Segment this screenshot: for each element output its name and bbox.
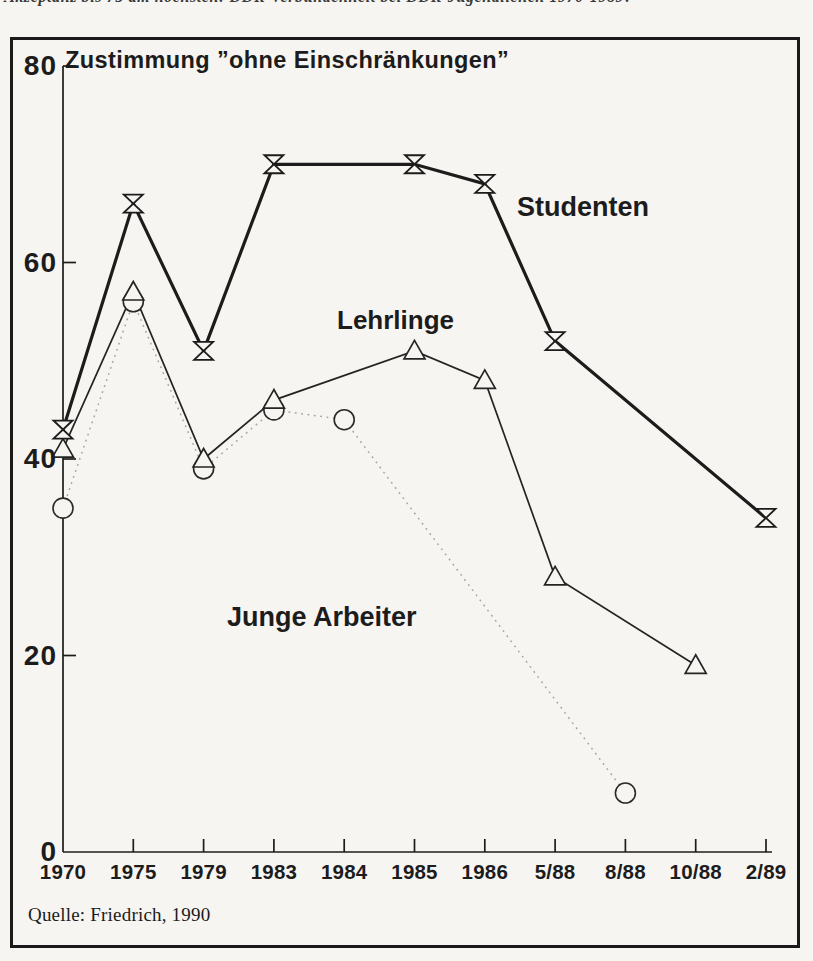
marker-lehrlinge xyxy=(123,281,144,300)
marker-junge-arbeiter xyxy=(334,410,354,430)
marker-lehrlinge xyxy=(685,655,706,674)
marker-lehrlinge xyxy=(545,566,566,585)
marker-lehrlinge xyxy=(193,449,214,468)
marker-studenten xyxy=(194,342,213,360)
y-tick-label: 20 xyxy=(0,639,57,673)
y-tick-label: 60 xyxy=(0,246,57,280)
y-tick-label: 40 xyxy=(0,442,57,476)
marker-lehrlinge xyxy=(474,370,495,389)
series-label-lehrlinge: Lehrlinge xyxy=(337,305,454,336)
x-tick-label: 2/89 xyxy=(728,860,804,884)
marker-studenten xyxy=(546,332,565,350)
y-tick-label: 80 xyxy=(0,49,57,83)
x-tick-label: 1985 xyxy=(377,860,453,884)
x-tick-label: 8/88 xyxy=(587,860,663,884)
marker-studenten xyxy=(475,175,494,193)
x-tick-label: 1979 xyxy=(166,860,242,884)
marker-studenten xyxy=(124,195,143,213)
marker-junge-arbeiter xyxy=(53,498,73,518)
x-tick-label: 1975 xyxy=(95,860,171,884)
marker-studenten xyxy=(54,421,73,439)
x-tick-label: 10/88 xyxy=(658,860,734,884)
x-tick-label: 1984 xyxy=(306,860,382,884)
marker-studenten xyxy=(757,509,776,527)
marker-junge-arbeiter xyxy=(615,783,635,803)
source-note: Quelle: Friedrich, 1990 xyxy=(28,904,210,926)
x-tick-label: 1986 xyxy=(447,860,523,884)
chart-canvas xyxy=(0,0,813,961)
series-label-junge-arbeiter: Junge Arbeiter xyxy=(227,602,417,633)
x-tick-label: 5/88 xyxy=(517,860,593,884)
scanned-chart-page: Akzeptanz bis 75 am höchsten: DDR-Verbun… xyxy=(0,0,813,961)
x-tick-label: 1970 xyxy=(25,860,101,884)
series-label-studenten: Studenten xyxy=(517,192,649,223)
marker-lehrlinge xyxy=(404,340,425,359)
marker-lehrlinge xyxy=(263,390,284,409)
x-tick-label: 1983 xyxy=(236,860,312,884)
